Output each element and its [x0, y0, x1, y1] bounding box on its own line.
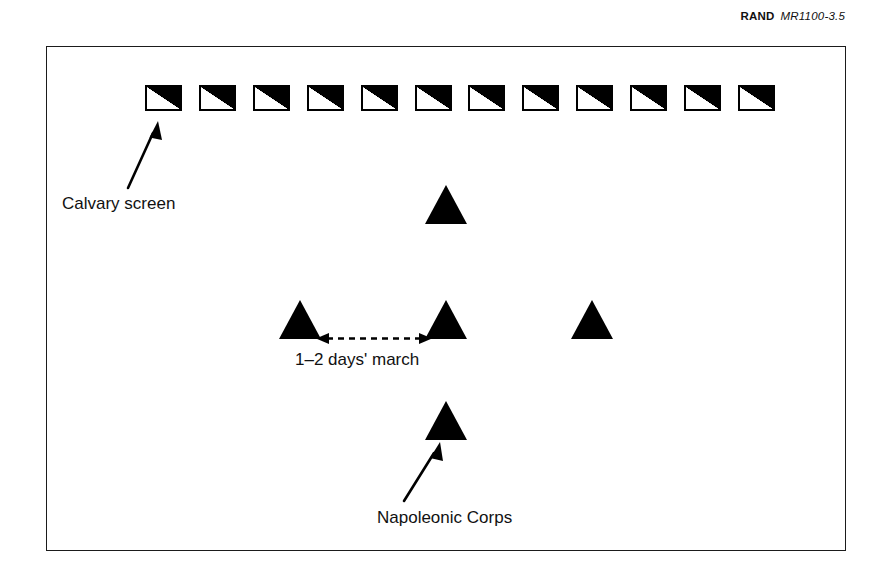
corps-leader-arrow-icon: [404, 442, 443, 501]
cavalry-symbol-7: [468, 85, 505, 111]
cavalry-symbol-5: [361, 85, 398, 111]
cavalry-symbol-1: [145, 85, 182, 111]
cavalry-symbol-12: [738, 85, 775, 111]
figure-root: RANDMR1100-3.5: [0, 0, 891, 583]
march-spacing-label: 1–2 days' march: [295, 351, 419, 368]
cavalry-symbol-10: [630, 85, 667, 111]
corps-unit-middle-center: [425, 300, 467, 339]
figure-canvas: Calvary screen 1–2 days' march Napoleoni…: [0, 0, 891, 583]
cavalry-screen-row: [145, 85, 775, 111]
cavalry-screen-label: Calvary screen: [62, 195, 175, 212]
corps-unit-top: [425, 185, 467, 224]
corps-unit-middle-left: [279, 300, 321, 339]
cavalry-symbol-2: [199, 85, 236, 111]
cavalry-symbol-8: [522, 85, 559, 111]
cavalry-symbol-3: [253, 85, 290, 111]
corps-unit-middle-right: [571, 300, 613, 339]
cavalry-symbol-11: [684, 85, 721, 111]
spacing-double-arrow-icon: [316, 333, 432, 344]
cavalry-symbol-9: [576, 85, 613, 111]
cavalry-symbol-6: [415, 85, 452, 111]
napoleonic-corps-label: Napoleonic Corps: [377, 509, 512, 526]
cavalry-leader-arrow-icon: [128, 121, 162, 188]
cavalry-symbol-4: [307, 85, 344, 111]
corps-unit-bottom: [425, 401, 467, 440]
